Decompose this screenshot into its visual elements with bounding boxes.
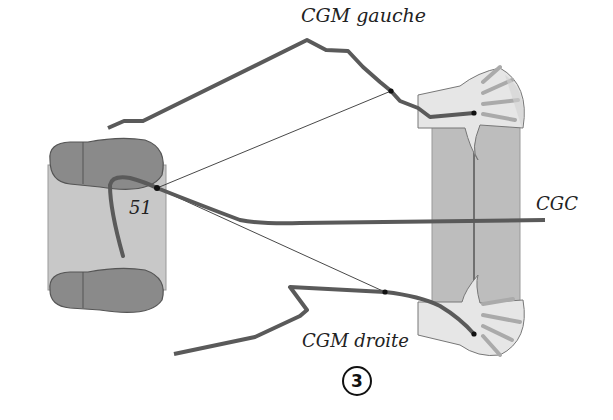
node-cgm-left — [388, 88, 393, 93]
diagram-graphics — [0, 0, 613, 420]
label-cgc: CGC — [536, 193, 578, 214]
node-cgm-right — [382, 289, 387, 294]
node-51 — [154, 185, 160, 191]
label-cgm-gauche: CGM gauche — [301, 4, 426, 26]
label-51: 51 — [129, 197, 152, 218]
diagram-canvas: CGM gauche CGM droite CGC 51 3 — [0, 0, 613, 420]
bottom-foot-icon — [50, 268, 163, 312]
node-bottom-hand — [471, 331, 476, 336]
figure-number-badge: 3 — [342, 366, 372, 396]
projection-lines — [157, 91, 391, 292]
cylinder — [48, 138, 166, 312]
label-cgm-droite: CGM droite — [302, 330, 409, 351]
node-top-hand — [471, 110, 476, 115]
